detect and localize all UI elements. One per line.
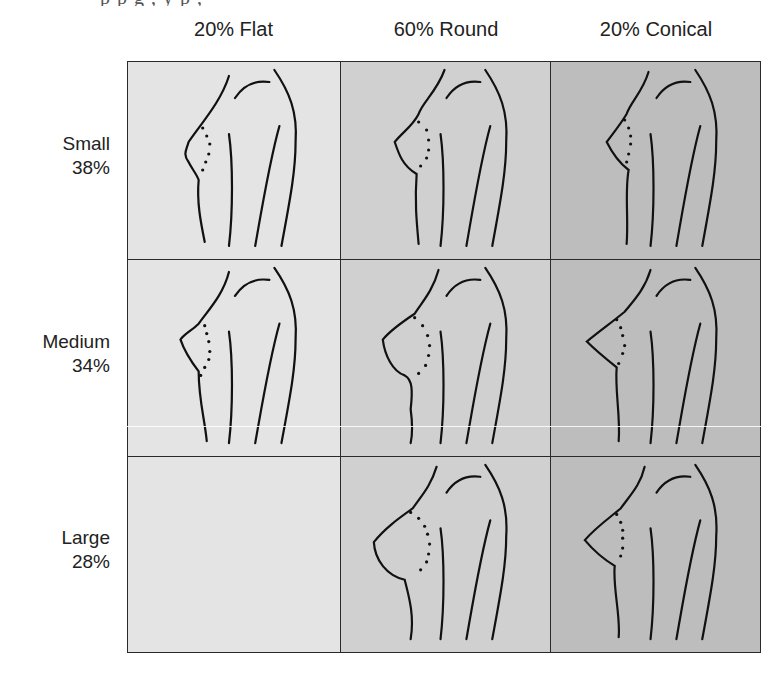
cell-large-round bbox=[341, 457, 551, 652]
row-label-medium-name: Medium bbox=[0, 330, 110, 354]
scan-line-artifact bbox=[127, 426, 761, 427]
front-contour-line bbox=[180, 272, 228, 441]
chest-wall-dot bbox=[199, 374, 202, 377]
back-contour-line bbox=[274, 70, 296, 246]
row-label-small-name: Small bbox=[0, 132, 110, 156]
chest-wall-dot bbox=[425, 128, 428, 131]
cell-large-flat-empty bbox=[128, 457, 341, 652]
chest-wall-dot bbox=[621, 546, 624, 549]
column-header-round: 60% Round bbox=[341, 18, 551, 46]
chest-wall-dot bbox=[427, 138, 430, 141]
cell-medium-conical bbox=[551, 260, 760, 457]
arm-inner-line bbox=[651, 134, 654, 246]
shoulder-arc-line bbox=[235, 82, 269, 98]
cell-medium-round bbox=[341, 260, 551, 457]
chest-wall-dot bbox=[207, 358, 210, 361]
back-contour-line bbox=[485, 268, 506, 443]
chest-wall-dot bbox=[207, 152, 210, 155]
figure-profile-conical-large bbox=[551, 457, 760, 652]
chest-wall-dot bbox=[619, 554, 622, 557]
chest-wall-dot bbox=[617, 362, 620, 365]
chest-wall-dot bbox=[203, 366, 206, 369]
chest-wall-dot bbox=[201, 126, 204, 129]
chest-wall-dot bbox=[204, 160, 207, 163]
back-contour-line bbox=[695, 465, 716, 639]
chest-wall-dot bbox=[615, 318, 618, 321]
column-header-conical: 20% Conical bbox=[551, 18, 761, 46]
chest-wall-dot bbox=[409, 511, 412, 514]
front-contour-line bbox=[607, 72, 649, 244]
row-label-large-name: Large bbox=[0, 526, 110, 550]
front-contour-line bbox=[587, 270, 651, 441]
chest-wall-dot bbox=[427, 148, 430, 151]
chest-wall-dot bbox=[417, 120, 420, 123]
chest-wall-dot bbox=[621, 529, 624, 532]
chest-wall-dot bbox=[619, 326, 622, 329]
arm-inner-line bbox=[441, 134, 444, 246]
row-label-small-percent: 38% bbox=[0, 156, 110, 180]
figure-profile-round-small bbox=[341, 62, 550, 259]
chest-wall-dot bbox=[621, 537, 624, 540]
chest-wall-dot bbox=[627, 152, 630, 155]
back-contour-line bbox=[485, 465, 506, 639]
arm-inner-line bbox=[651, 528, 654, 639]
chest-wall-dot bbox=[426, 533, 429, 536]
cell-small-conical bbox=[551, 62, 760, 260]
front-contour-line bbox=[585, 467, 645, 637]
figure-profile-round-large bbox=[341, 457, 550, 652]
chest-wall-dot bbox=[621, 352, 624, 355]
chest-wall-dot bbox=[419, 164, 422, 167]
shoulder-arc-line bbox=[656, 82, 690, 98]
chest-wall-dot bbox=[417, 517, 420, 520]
chest-wall-dot bbox=[621, 334, 624, 337]
chest-wall-dot bbox=[421, 324, 424, 327]
chest-wall-dot bbox=[426, 334, 429, 337]
chest-wall-dot bbox=[427, 552, 430, 555]
chest-wall-dot bbox=[623, 118, 626, 121]
arm-inner-line bbox=[441, 528, 444, 639]
cell-small-round bbox=[341, 62, 551, 260]
arm-outer-line bbox=[255, 126, 279, 246]
shoulder-arc-line bbox=[235, 280, 269, 296]
chest-wall-dot bbox=[419, 568, 422, 571]
chest-wall-dot bbox=[208, 142, 211, 145]
chest-wall-dot bbox=[627, 126, 630, 129]
chest-wall-dot bbox=[208, 350, 211, 353]
chest-wall-dot bbox=[428, 543, 431, 546]
chest-wall-dot bbox=[203, 324, 206, 327]
cut-off-caption-text: p p g , y p , bbox=[100, 0, 782, 6]
chest-wall-dot bbox=[428, 344, 431, 347]
front-contour-line bbox=[395, 70, 445, 244]
row-label-medium-percent: 34% bbox=[0, 354, 110, 378]
chest-wall-dot bbox=[425, 156, 428, 159]
figure-profile-flat-small bbox=[128, 62, 340, 259]
arm-outer-line bbox=[466, 126, 490, 246]
shoulder-arc-line bbox=[656, 476, 690, 492]
row-label-large-percent: 28% bbox=[0, 550, 110, 574]
cell-large-conical bbox=[551, 457, 760, 652]
shoulder-arc-line bbox=[446, 280, 480, 296]
chest-wall-dot bbox=[619, 521, 622, 524]
chest-wall-dot bbox=[427, 354, 430, 357]
chest-wall-dot bbox=[623, 344, 626, 347]
chest-wall-dot bbox=[424, 364, 427, 367]
arm-inner-line bbox=[229, 134, 232, 246]
arm-outer-line bbox=[676, 520, 700, 639]
chest-wall-dot bbox=[417, 372, 420, 375]
chest-wall-dot bbox=[615, 513, 618, 516]
chest-wall-dot bbox=[413, 316, 416, 319]
chest-wall-dot bbox=[423, 525, 426, 528]
shape-size-grid bbox=[127, 61, 761, 653]
back-contour-line bbox=[695, 70, 716, 246]
cell-medium-flat bbox=[128, 260, 341, 457]
chest-wall-dot bbox=[629, 134, 632, 137]
row-label-small: Small 38% bbox=[0, 132, 110, 180]
arm-outer-line bbox=[466, 520, 490, 639]
shoulder-arc-line bbox=[656, 280, 690, 296]
chest-wall-dot bbox=[625, 160, 628, 163]
shoulder-arc-line bbox=[446, 476, 480, 492]
chest-wall-dot bbox=[207, 340, 210, 343]
chest-wall-dot bbox=[629, 142, 632, 145]
cell-small-flat bbox=[128, 62, 341, 260]
figure-profile-conical-small bbox=[551, 62, 760, 259]
